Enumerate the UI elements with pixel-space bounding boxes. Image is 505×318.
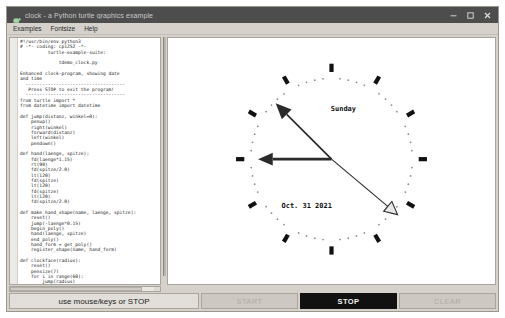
- button-bar: use mouse/keys or STOP START STOP CLEAR: [7, 292, 498, 311]
- clock-minute-dot: [363, 232, 365, 234]
- clock-minute-dot: [314, 237, 316, 239]
- clock-minute-dot: [407, 183, 409, 185]
- clock-minute-dot: [356, 235, 358, 237]
- clock-minute-dot: [254, 133, 256, 135]
- clock-minute-dot: [283, 93, 285, 95]
- scrollbar-thumb[interactable]: [10, 287, 142, 291]
- clock-weekday-label: Sunday: [331, 105, 356, 113]
- clock-hand-head: [258, 153, 273, 166]
- clock-hour-tick: [249, 203, 256, 207]
- title-bar[interactable]: clock - a Python turtle graphics example: [7, 7, 498, 23]
- clock-minute-dot: [410, 175, 412, 177]
- clock-minute-dot: [347, 79, 349, 81]
- clock-hour-tick: [284, 76, 288, 83]
- menu-fontsize[interactable]: Fontsize: [51, 25, 76, 32]
- clock-group: SundayOct. 31 2021: [236, 64, 427, 255]
- maximize-button[interactable]: [462, 7, 479, 23]
- clock-minute-dot: [378, 93, 380, 95]
- clear-button[interactable]: CLEAR: [399, 293, 496, 309]
- menu-help[interactable]: Help: [84, 25, 97, 32]
- clock-minute-dot: [410, 141, 412, 143]
- clock-minute-dot: [271, 212, 273, 214]
- code-editor-pane[interactable]: #!/usr/bin/env python3 # -*- coding: cp1…: [9, 37, 161, 285]
- clock-minute-dot: [322, 239, 324, 241]
- clock-minute-dot: [322, 78, 324, 80]
- clock-minute-dot: [314, 79, 316, 81]
- clock-minute-dot: [265, 206, 267, 208]
- clock-hour-tick: [375, 76, 379, 83]
- minimize-button[interactable]: [445, 7, 462, 23]
- clock-minute-dot: [339, 78, 341, 80]
- code-source-text: #!/usr/bin/env python3 # -*- coding: cp1…: [20, 39, 160, 284]
- clock-minute-dot: [396, 206, 398, 208]
- clock-minute-dot: [385, 218, 387, 220]
- clock-minute-dot: [277, 98, 279, 100]
- clock-minute-dot: [385, 98, 387, 100]
- clock-minute-dot: [254, 183, 256, 185]
- clock-minute-dot: [250, 150, 252, 152]
- code-scroll-region[interactable]: #!/usr/bin/env python3 # -*- coding: cp1…: [18, 38, 160, 284]
- clock-minute-dot: [283, 224, 285, 226]
- clock-minute-dot: [396, 111, 398, 113]
- stop-button[interactable]: STOP: [300, 293, 397, 309]
- clock-minute-dot: [250, 167, 252, 169]
- clock-minute-dot: [306, 81, 308, 83]
- clock-minute-dot: [411, 150, 413, 152]
- work-area: #!/usr/bin/env python3 # -*- coding: cp1…: [7, 35, 498, 285]
- clock-hour-tick: [375, 235, 379, 242]
- clock-minute-dot: [404, 125, 406, 127]
- clock-minute-dot: [277, 218, 279, 220]
- clock-minute-dot: [257, 125, 259, 127]
- clock-minute-dot: [404, 191, 406, 193]
- clock-minute-dot: [265, 111, 267, 113]
- clock-hour-tick: [407, 203, 414, 207]
- clock-minute-dot: [252, 141, 254, 143]
- application-window: clock - a Python turtle graphics example…: [6, 6, 499, 312]
- clock-minute-dot: [298, 232, 300, 234]
- horizontal-scroll-strip: [7, 285, 498, 292]
- clock-drawing: SundayOct. 31 2021: [168, 38, 495, 284]
- clock-hand-shaft: [287, 114, 332, 159]
- menu-bar: Examples Fontsize Help: [7, 23, 498, 35]
- code-horizontal-scrollbar[interactable]: [9, 286, 161, 292]
- clock-minute-dot: [306, 235, 308, 237]
- clock-hour-tick: [249, 111, 256, 115]
- clock-minute-dot: [271, 104, 273, 106]
- clock-minute-dot: [347, 237, 349, 239]
- clock-minute-dot: [298, 84, 300, 86]
- clock-minute-dot: [252, 175, 254, 177]
- window-controls: [445, 7, 496, 23]
- clock-minute-dot: [378, 224, 380, 226]
- clock-hour-tick: [407, 111, 414, 115]
- status-message: use mouse/keys or STOP: [9, 293, 199, 309]
- close-button[interactable]: [479, 7, 496, 23]
- clock-minute-dot: [339, 239, 341, 241]
- clock-minute-dot: [391, 104, 393, 106]
- clock-date-label: Oct. 31 2021: [282, 202, 332, 210]
- clock-minute-dot: [407, 133, 409, 135]
- clock-minute-dot: [363, 84, 365, 86]
- clock-minute-dot: [411, 167, 413, 169]
- clock-second-hand-head: [384, 201, 398, 214]
- scroll-right-arrow-icon[interactable]: [154, 287, 160, 291]
- clock-minute-dot: [356, 81, 358, 83]
- turtle-icon: [12, 11, 21, 20]
- clock-hour-tick: [284, 235, 288, 242]
- splitter-handle[interactable]: [163, 37, 166, 276]
- turtle-canvas[interactable]: SundayOct. 31 2021: [167, 37, 496, 285]
- start-button[interactable]: START: [201, 293, 298, 309]
- menu-examples[interactable]: Examples: [13, 25, 42, 32]
- window-title: clock - a Python turtle graphics example: [25, 12, 445, 19]
- clock-second-hand-shaft: [332, 159, 388, 206]
- clock-minute-dot: [257, 191, 259, 193]
- code-gutter: [10, 38, 18, 284]
